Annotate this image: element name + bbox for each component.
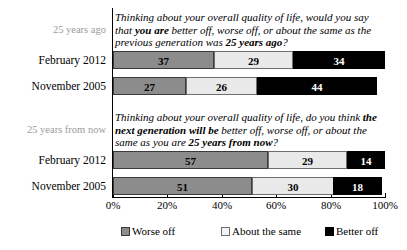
legend-item[interactable]: Better off [325, 224, 378, 238]
x-axis-tick-label: 100% [365, 199, 405, 212]
panel-group-label: 25 years ago [0, 24, 106, 36]
stacked-bar-chart: 0%20%40%60%80%100% 25 years agoThinking … [0, 0, 407, 250]
bar-segment: 30 [252, 177, 334, 195]
chart-legend: Worse offAbout the sameBetter off [113, 224, 385, 240]
bar-segment: 29 [214, 51, 293, 69]
x-axis-tick-label: 60% [256, 199, 296, 212]
bar-segment: 27 [113, 77, 186, 95]
bar-segment: 14 [347, 151, 385, 169]
y-axis-line [112, 8, 113, 198]
x-axis-tick-label: 0% [93, 199, 133, 212]
x-axis-tick-label: 80% [311, 199, 351, 212]
bar-segment: 51 [113, 177, 252, 195]
legend-label: About the same [232, 225, 301, 237]
bar-row: 372934 [113, 51, 385, 69]
legend-swatch-icon [221, 227, 230, 236]
legend-swatch-icon [325, 227, 334, 236]
panel-question-text: Thinking about your overall quality of l… [115, 111, 387, 149]
bar-row-label: February 2012 [0, 154, 106, 166]
legend-label: Better off [336, 225, 378, 237]
panel-group-label: 25 years from now [0, 124, 106, 136]
bar-segment: 44 [257, 77, 377, 95]
bar-segment: 37 [113, 51, 214, 69]
legend-item[interactable]: About the same [221, 224, 301, 238]
legend-swatch-icon [121, 227, 130, 236]
legend-item[interactable]: Worse off [121, 224, 175, 238]
bar-segment: 34 [293, 51, 385, 69]
x-axis-baseline [112, 197, 386, 198]
bar-row: 572914 [113, 151, 385, 169]
bar-segment: 18 [333, 177, 382, 195]
bar-row: 272644 [113, 77, 385, 95]
x-axis-tick-label: 20% [147, 199, 187, 212]
bar-row-label: November 2005 [0, 80, 106, 92]
bar-segment: 57 [113, 151, 268, 169]
bar-row-label: November 2005 [0, 180, 106, 192]
bar-segment: 29 [268, 151, 347, 169]
bar-row: 513018 [113, 177, 385, 195]
bar-row-label: February 2012 [0, 54, 106, 66]
panel-question-text: Thinking about your overall quality of l… [115, 11, 387, 49]
legend-label: Worse off [132, 225, 175, 237]
x-axis-tick [385, 193, 386, 198]
bar-segment: 26 [186, 77, 257, 95]
x-axis-tick-label: 40% [202, 199, 242, 212]
